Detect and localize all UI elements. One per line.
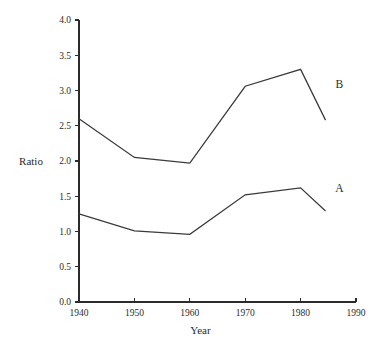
- x-axis-title: Year: [190, 324, 211, 336]
- x-axis-ticks: 194019501960197019801990: [70, 298, 366, 318]
- series-label-b: B: [336, 78, 344, 90]
- y-tick-label: 3.5: [59, 51, 71, 61]
- y-tick-label: 0.0: [59, 297, 71, 307]
- x-tick-label: 1970: [236, 308, 255, 318]
- x-tick-label: 1990: [347, 308, 366, 318]
- y-tick-label: 4.0: [59, 15, 71, 25]
- y-axis-ticks: 0.00.51.01.52.02.53.03.54.0: [59, 15, 79, 307]
- series-label-a: A: [335, 182, 344, 194]
- y-tick-label: 2.5: [59, 121, 71, 131]
- x-tick-label: 1980: [291, 308, 310, 318]
- y-tick-label: 2.0: [59, 156, 71, 166]
- line-chart: 0.00.51.01.52.02.53.03.54.0 194019501960…: [0, 0, 387, 348]
- y-tick-label: 0.5: [59, 262, 71, 272]
- x-tick-label: 1940: [70, 308, 89, 318]
- y-tick-label: 1.5: [59, 192, 71, 202]
- series-lines: [79, 69, 326, 234]
- series-line-a: [79, 188, 326, 235]
- series-line-b: [79, 69, 326, 163]
- y-tick-label: 1.0: [59, 227, 71, 237]
- series-labels: BA: [335, 78, 344, 194]
- x-tick-label: 1950: [125, 308, 144, 318]
- y-tick-label: 3.0: [59, 86, 71, 96]
- x-tick-label: 1960: [180, 308, 199, 318]
- y-axis-title: Ratio: [19, 155, 43, 167]
- axes-group: [79, 20, 356, 302]
- chart-canvas: 0.00.51.01.52.02.53.03.54.0 194019501960…: [0, 0, 387, 348]
